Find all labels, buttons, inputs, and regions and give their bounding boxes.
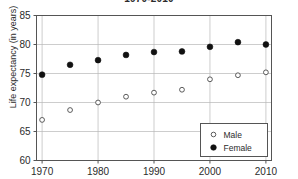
x-axis-tick-labels: 19701980199020002010 bbox=[31, 166, 277, 177]
data-point-male bbox=[124, 94, 129, 99]
data-point-female bbox=[207, 44, 213, 50]
data-point-female bbox=[235, 39, 241, 45]
x-tick-label: 1980 bbox=[87, 166, 110, 177]
y-tick-label: 65 bbox=[19, 126, 31, 137]
y-tick-label: 80 bbox=[19, 39, 31, 50]
x-tick-label: 2010 bbox=[255, 166, 278, 177]
data-point-male bbox=[152, 90, 157, 95]
data-point-female bbox=[151, 49, 157, 55]
data-point-female bbox=[263, 42, 269, 48]
data-point-male bbox=[208, 77, 213, 82]
legend-label-female: Female bbox=[224, 143, 253, 153]
data-point-female bbox=[67, 62, 73, 68]
scatter-plot: 606570758085 19701980199020002010 MaleFe… bbox=[0, 0, 298, 179]
legend-label-male: Male bbox=[224, 130, 243, 140]
data-point-male bbox=[40, 118, 45, 123]
y-axis-tick-labels: 606570758085 bbox=[19, 10, 31, 166]
chart-figure: 1970-2010 Life expectancy (in years) 606… bbox=[0, 0, 298, 179]
chart-legend: MaleFemale bbox=[201, 124, 268, 157]
data-point-male bbox=[96, 100, 101, 105]
data-point-male bbox=[68, 108, 73, 113]
y-tick-label: 60 bbox=[19, 155, 31, 166]
x-tick-label: 1970 bbox=[31, 166, 54, 177]
data-point-male bbox=[236, 73, 241, 78]
data-point-female bbox=[39, 72, 45, 78]
y-tick-label: 75 bbox=[19, 68, 31, 79]
legend-marker-male bbox=[211, 132, 216, 137]
legend-marker-female bbox=[211, 145, 217, 151]
y-tick-label: 85 bbox=[19, 10, 31, 21]
data-point-female bbox=[179, 49, 185, 55]
data-point-male bbox=[180, 87, 185, 92]
x-tick-label: 1990 bbox=[143, 166, 166, 177]
y-tick-label: 70 bbox=[19, 97, 31, 108]
data-point-female bbox=[123, 52, 129, 58]
x-tick-label: 2000 bbox=[199, 166, 222, 177]
data-point-female bbox=[95, 57, 101, 63]
data-point-male bbox=[264, 70, 269, 75]
